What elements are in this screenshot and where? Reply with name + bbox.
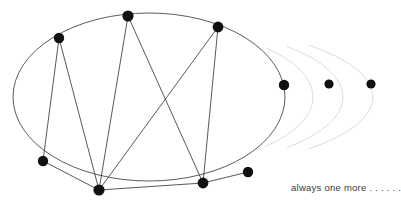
chord-a-e <box>59 38 99 190</box>
caption-always-one-more: always one more . . . . . . <box>291 183 401 193</box>
chord-c-f <box>203 27 218 183</box>
vertex-c <box>213 22 224 33</box>
arc-2 <box>287 46 343 147</box>
chord-b-e <box>99 16 128 190</box>
chord-e-f <box>99 183 203 190</box>
outer-dots-group <box>324 79 375 88</box>
vertex-g <box>243 167 253 177</box>
ghost-arcs-group <box>266 45 373 149</box>
chord-c-e <box>99 27 218 190</box>
chord-a-d <box>43 38 59 161</box>
main-ellipse <box>13 13 285 181</box>
chords-group <box>43 16 248 190</box>
vertex-e <box>93 184 104 195</box>
arc-3 <box>308 45 373 149</box>
outer-dot-2 <box>366 79 375 88</box>
main-ellipse-group <box>13 13 285 181</box>
vertex-d <box>38 156 48 166</box>
vertex-f <box>198 178 209 189</box>
vertex-a <box>54 33 64 43</box>
outer-dot-1 <box>324 79 333 88</box>
vertex-b <box>122 10 133 21</box>
vertex-h <box>279 80 289 90</box>
chord-f-g <box>203 172 248 183</box>
